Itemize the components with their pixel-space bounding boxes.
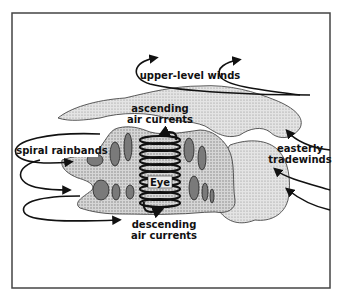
- upper-level-winds-label: upper-level winds: [140, 70, 241, 81]
- descending-label-line2: air currents: [131, 230, 197, 241]
- hurricane-diagram: Eye upper-level winds ascending air curr…: [0, 0, 340, 294]
- descending-label-line1: descending: [132, 219, 197, 230]
- ascending-label-line2: air currents: [127, 114, 193, 125]
- easterly-label-line2: tradewinds: [268, 154, 331, 165]
- ascending-label-line1: ascending: [131, 103, 188, 114]
- spiral-rainbands-label: spiral rainbands: [16, 145, 108, 156]
- easterly-label-line1: easterly: [277, 143, 323, 154]
- eye-label: Eye: [150, 177, 170, 188]
